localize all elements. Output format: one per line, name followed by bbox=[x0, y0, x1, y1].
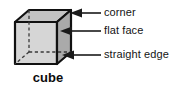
figure-caption-cube: cube bbox=[22, 71, 74, 84]
callout-label-flat-face: flat face bbox=[104, 25, 143, 36]
callout-label-corner: corner bbox=[104, 7, 136, 18]
callout-label-straight-edge: straight edge bbox=[104, 49, 169, 60]
cube-front-face bbox=[15, 22, 57, 64]
cube-shape bbox=[15, 10, 71, 64]
callout-corner-leader bbox=[70, 9, 101, 18]
figure-container: corner flat face straight edge cube bbox=[0, 0, 183, 88]
